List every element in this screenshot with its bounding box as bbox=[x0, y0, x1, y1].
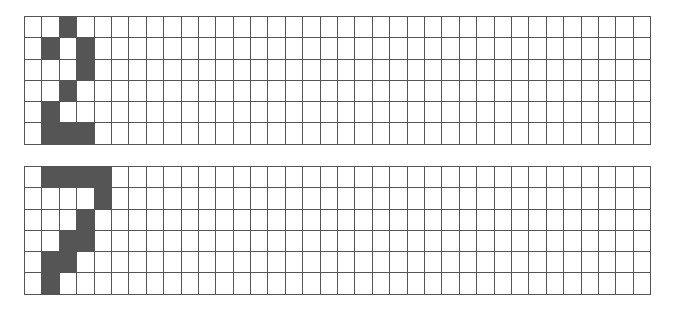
filled-cell bbox=[42, 167, 59, 188]
empty-cell bbox=[147, 210, 164, 231]
filled-cell bbox=[77, 60, 94, 81]
empty-cell bbox=[321, 38, 338, 59]
empty-cell bbox=[164, 231, 181, 252]
empty-cell bbox=[442, 102, 459, 123]
empty-cell bbox=[147, 123, 164, 144]
empty-cell bbox=[234, 273, 251, 294]
filled-cell bbox=[42, 252, 59, 273]
empty-cell bbox=[390, 252, 407, 273]
empty-cell bbox=[42, 17, 59, 38]
empty-cell bbox=[234, 167, 251, 188]
empty-cell bbox=[199, 231, 216, 252]
empty-cell bbox=[495, 188, 512, 209]
empty-cell bbox=[164, 123, 181, 144]
empty-cell bbox=[251, 123, 268, 144]
empty-cell bbox=[268, 188, 285, 209]
empty-cell bbox=[442, 38, 459, 59]
empty-cell bbox=[390, 38, 407, 59]
empty-cell bbox=[616, 102, 633, 123]
empty-cell bbox=[25, 252, 42, 273]
empty-cell bbox=[529, 252, 546, 273]
empty-cell bbox=[495, 81, 512, 102]
empty-cell bbox=[60, 60, 77, 81]
empty-cell bbox=[321, 231, 338, 252]
empty-cell bbox=[373, 81, 390, 102]
empty-cell bbox=[373, 17, 390, 38]
empty-cell bbox=[147, 188, 164, 209]
filled-cell bbox=[42, 38, 59, 59]
empty-cell bbox=[460, 273, 477, 294]
empty-cell bbox=[373, 60, 390, 81]
empty-cell bbox=[355, 81, 372, 102]
empty-cell bbox=[547, 38, 564, 59]
empty-cell bbox=[477, 188, 494, 209]
empty-cell bbox=[216, 123, 233, 144]
empty-cell bbox=[303, 102, 320, 123]
empty-cell bbox=[582, 102, 599, 123]
empty-cell bbox=[182, 188, 199, 209]
empty-cell bbox=[129, 273, 146, 294]
empty-cell bbox=[129, 123, 146, 144]
empty-cell bbox=[495, 231, 512, 252]
empty-cell bbox=[599, 60, 616, 81]
empty-cell bbox=[442, 60, 459, 81]
empty-cell bbox=[251, 17, 268, 38]
empty-cell bbox=[112, 60, 129, 81]
empty-cell bbox=[442, 188, 459, 209]
empty-cell bbox=[147, 81, 164, 102]
empty-cell bbox=[599, 167, 616, 188]
empty-cell bbox=[373, 210, 390, 231]
empty-cell bbox=[547, 210, 564, 231]
empty-cell bbox=[268, 167, 285, 188]
empty-cell bbox=[338, 188, 355, 209]
empty-cell bbox=[268, 38, 285, 59]
empty-cell bbox=[95, 210, 112, 231]
empty-cell bbox=[182, 60, 199, 81]
empty-cell bbox=[477, 81, 494, 102]
empty-cell bbox=[251, 60, 268, 81]
empty-cell bbox=[512, 60, 529, 81]
empty-cell bbox=[582, 38, 599, 59]
empty-cell bbox=[216, 81, 233, 102]
empty-cell bbox=[599, 210, 616, 231]
empty-cell bbox=[408, 252, 425, 273]
empty-cell bbox=[616, 81, 633, 102]
empty-cell bbox=[164, 252, 181, 273]
empty-cell bbox=[286, 38, 303, 59]
empty-cell bbox=[147, 38, 164, 59]
empty-cell bbox=[164, 273, 181, 294]
empty-cell bbox=[512, 38, 529, 59]
empty-cell bbox=[564, 81, 581, 102]
empty-cell bbox=[129, 210, 146, 231]
empty-cell bbox=[373, 123, 390, 144]
empty-cell bbox=[112, 231, 129, 252]
empty-cell bbox=[268, 123, 285, 144]
empty-cell bbox=[547, 123, 564, 144]
empty-cell bbox=[564, 231, 581, 252]
empty-cell bbox=[164, 38, 181, 59]
empty-cell bbox=[251, 167, 268, 188]
empty-cell bbox=[460, 81, 477, 102]
empty-cell bbox=[477, 17, 494, 38]
filled-cell bbox=[77, 167, 94, 188]
empty-cell bbox=[582, 188, 599, 209]
empty-cell bbox=[355, 188, 372, 209]
empty-cell bbox=[355, 60, 372, 81]
empty-cell bbox=[338, 60, 355, 81]
empty-cell bbox=[164, 17, 181, 38]
empty-cell bbox=[303, 273, 320, 294]
empty-cell bbox=[60, 273, 77, 294]
empty-cell bbox=[390, 60, 407, 81]
empty-cell bbox=[408, 123, 425, 144]
empty-cell bbox=[599, 17, 616, 38]
empty-cell bbox=[147, 231, 164, 252]
empty-cell bbox=[529, 188, 546, 209]
empty-cell bbox=[77, 188, 94, 209]
empty-cell bbox=[77, 252, 94, 273]
empty-cell bbox=[199, 188, 216, 209]
empty-cell bbox=[338, 252, 355, 273]
empty-cell bbox=[512, 102, 529, 123]
empty-cell bbox=[425, 17, 442, 38]
empty-cell bbox=[582, 167, 599, 188]
empty-cell bbox=[199, 60, 216, 81]
